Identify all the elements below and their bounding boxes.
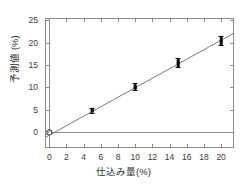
data-point [177, 62, 180, 65]
x-tick [152, 144, 153, 148]
data-point [177, 58, 180, 61]
x-axis-title: 仕込み量(%) [0, 164, 247, 178]
y-tick [45, 43, 49, 44]
data-point [91, 109, 94, 112]
y-tick [45, 65, 49, 66]
x-tick [135, 144, 136, 148]
x-tick [221, 144, 222, 148]
x-tick-top [118, 18, 119, 22]
x-tick-top [152, 18, 153, 22]
error-bar-cap [133, 90, 138, 91]
x-tick-label: 0 [47, 152, 52, 162]
x-tick-label: 10 [130, 152, 139, 162]
x-tick [204, 144, 205, 148]
x-tick-label: 8 [116, 152, 121, 162]
x-tick-top [187, 18, 188, 22]
x-tick-label: 20 [216, 152, 225, 162]
error-bar-cap [219, 45, 224, 46]
x-tick [49, 144, 50, 148]
plot-area [45, 18, 234, 148]
data-point [220, 36, 223, 39]
x-tick-top [84, 18, 85, 22]
x-tick-top [101, 18, 102, 22]
y-tick-label: 0 [0, 127, 38, 137]
x-tick-label: 18 [199, 152, 208, 162]
x-tick [118, 144, 119, 148]
x-tick-top [221, 18, 222, 22]
x-tick-top [204, 18, 205, 22]
y-tick-right [230, 65, 234, 66]
y-tick [45, 87, 49, 88]
x-tick [187, 144, 188, 148]
y-tick [45, 20, 49, 21]
data-point [220, 40, 223, 43]
y-tick-right [230, 110, 234, 111]
x-tick-label: 4 [81, 152, 86, 162]
x-tick-top [170, 18, 171, 22]
y-tick-right [230, 20, 234, 21]
x-tick [66, 144, 67, 148]
data-point [134, 86, 137, 89]
y-tick [45, 132, 49, 133]
x-tick-top [135, 18, 136, 22]
chart-figure: 02468101214161820 0510152025 仕込み量(%) 予測値… [0, 0, 247, 185]
x-tick-label: 12 [148, 152, 157, 162]
x-tick-label: 2 [64, 152, 69, 162]
x-tick [170, 144, 171, 148]
x-tick-top [66, 18, 67, 22]
x-tick-label: 6 [98, 152, 103, 162]
x-tick [84, 144, 85, 148]
regression-line [45, 18, 234, 148]
y-tick-right [230, 43, 234, 44]
y-tick-right [230, 87, 234, 88]
x-tick-top [49, 18, 50, 22]
y-tick-right [230, 132, 234, 133]
x-tick [101, 144, 102, 148]
x-tick-label: 16 [182, 152, 191, 162]
y-tick [45, 110, 49, 111]
x-tick-label: 14 [165, 152, 174, 162]
y-axis-title: 予測値 (%) [7, 9, 21, 109]
